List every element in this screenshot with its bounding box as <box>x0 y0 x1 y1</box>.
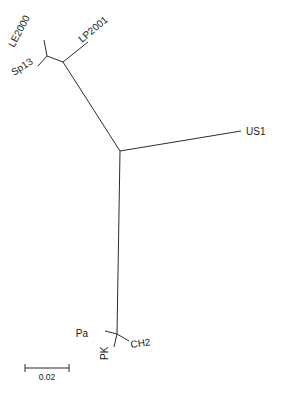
tip-label-sp13: Sp13 <box>9 55 35 77</box>
phylogenetic-tree-figure: LE2000 Sp13 LP2001 US1 Pa CH2 PK 0.02 <box>0 0 283 393</box>
tip-label-pa: Pa <box>76 328 89 339</box>
branch-ch2 <box>117 334 129 341</box>
scale-bar: 0.02 <box>25 364 69 382</box>
branch-stem <box>117 151 120 334</box>
scale-bar-label: 0.02 <box>39 372 56 382</box>
tip-label-pk: PK <box>99 346 110 360</box>
branch-lp2001 <box>63 42 88 62</box>
tip-label-lp2001: LP2001 <box>76 14 110 45</box>
branch-sp13 <box>38 56 47 66</box>
branch-upper-fork <box>47 56 63 62</box>
tip-label-ch2: CH2 <box>130 336 152 350</box>
branch-pk <box>114 334 117 347</box>
tip-label-us1: US1 <box>246 126 266 137</box>
branch-le2000 <box>44 40 47 56</box>
branch-upper <box>63 62 120 151</box>
tree-canvas: LE2000 Sp13 LP2001 US1 Pa CH2 PK 0.02 <box>0 0 283 393</box>
branch-pa <box>105 331 117 334</box>
branch-us1 <box>120 131 241 151</box>
tip-label-le2000: LE2000 <box>6 13 32 49</box>
